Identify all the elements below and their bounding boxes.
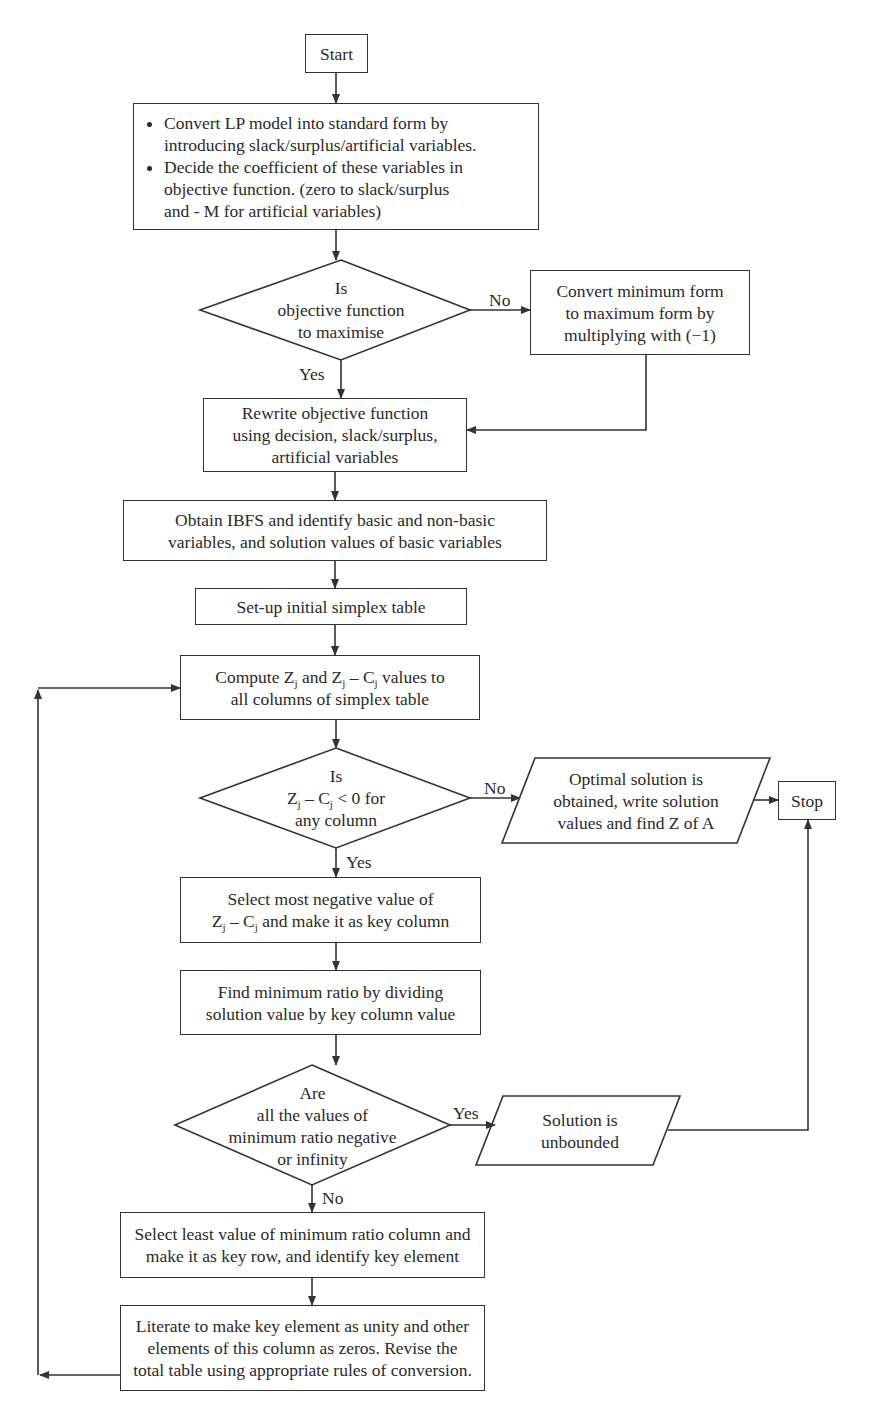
obtain-ibfs-box: Obtain IBFS and identify basic and non-b… [123, 500, 547, 561]
branch-label-yes: Yes [453, 1103, 478, 1123]
start-label: Start [320, 43, 353, 65]
unbounded-text: Solution is unbounded [500, 1098, 660, 1164]
branch-label-yes: Yes [299, 364, 324, 384]
optimal-solution-text: Optimal solution is obtained, write solu… [530, 760, 742, 842]
min-ratio-box: Find minimum ratio by dividing solution … [180, 970, 481, 1035]
standard-form-bullets: Convert LP model into standard form by i… [146, 112, 476, 222]
compute-zj-line1: Compute Zj and Zj – Cj values to [215, 666, 444, 688]
branch-label-no: No [489, 290, 510, 310]
compute-zj-box: Compute Zj and Zj – Cj values to all col… [180, 655, 480, 720]
bullet-item: Convert LP model into standard form by i… [164, 112, 476, 156]
rewrite-objective-box: Rewrite objective function using decisio… [203, 398, 467, 472]
decision-optimal-text: Is Zj – Cj < 0 for any column [226, 752, 446, 844]
select-key-column-box: Select most negative value of Zj – Cj an… [180, 877, 481, 943]
bullet-item: Decide the coefficient of these variable… [164, 156, 476, 222]
iterate-box: Literate to make key element as unity an… [120, 1305, 485, 1391]
standard-form-box: Convert LP model into standard form by i… [133, 103, 539, 230]
branch-label-no: No [484, 778, 505, 798]
stop-terminal: Stop [778, 781, 836, 820]
branch-label-no: No [322, 1188, 343, 1208]
convert-min-max-box: Convert minimum form to maximum form by … [530, 270, 750, 355]
branch-label-yes: Yes [346, 852, 371, 872]
setup-table-box: Set-up initial simplex table [195, 588, 467, 625]
key-row-box: Select least value of minimum ratio colu… [120, 1212, 485, 1278]
decision-maximise-text: Is objective function to maximise [220, 262, 462, 358]
decision-unbounded-text: Are all the values of minimum ratio nega… [200, 1072, 425, 1180]
start-terminal: Start [305, 34, 368, 73]
